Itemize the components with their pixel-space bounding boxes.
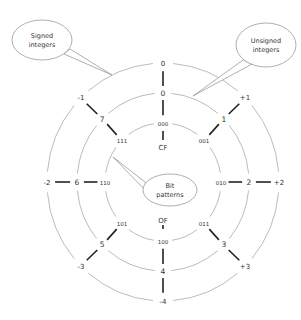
bit-patterns-callout-text-line2: patterns <box>156 191 184 199</box>
unsigned-value-label: 1 <box>221 115 226 124</box>
unsigned-value-label: 6 <box>75 178 80 187</box>
number-wheel-diagram: 00000+11001+22010+33011-44100-35101-2611… <box>0 0 301 320</box>
spoke-tick <box>209 124 219 135</box>
signed-integers-callout-text-line2: integers <box>29 41 56 49</box>
bit-patterns-callout-pointer <box>113 157 148 193</box>
signed-value-label: +2 <box>274 179 284 187</box>
bits-ring-arc <box>129 124 154 135</box>
signed-integers-callout: Signedintegers <box>12 20 112 75</box>
unsigned-value-label: 0 <box>161 89 166 98</box>
unsigned-ring-arc <box>108 93 155 113</box>
spoke-tick <box>107 124 117 135</box>
signed-value-label: 0 <box>161 60 165 68</box>
signed-value-label: +1 <box>240 94 250 102</box>
bit-pattern-label: 011 <box>199 221 210 227</box>
unsigned-value-label: 4 <box>161 267 166 276</box>
callouts: SignedintegersUnsignedintegersBitpattern… <box>12 20 296 206</box>
unsigned-value-label: 2 <box>247 178 252 187</box>
bit-pattern-label: 000 <box>158 121 169 127</box>
bits-ring-arc <box>106 147 116 173</box>
bit-patterns-callout-bubble <box>143 174 197 206</box>
signed-ring-arc <box>252 106 279 172</box>
bit-pattern-label: 101 <box>117 221 128 227</box>
unsigned-integers-callout: Unsignedintegers <box>193 23 296 96</box>
spoke-tick <box>87 104 98 114</box>
spoke-tick <box>229 250 240 260</box>
bit-pattern-label: 001 <box>199 138 210 144</box>
bits-ring-arc <box>106 191 116 217</box>
signed-ring-arc <box>252 192 279 258</box>
overflow-flag-label: OF <box>158 217 168 225</box>
unsigned-integers-callout-bubble <box>236 23 296 67</box>
signed-value-label: -3 <box>78 263 85 271</box>
unsigned-ring-arc <box>229 191 248 239</box>
bits-ring-arc <box>210 191 220 217</box>
unsigned-value-label: 5 <box>100 240 105 249</box>
unsigned-ring-arc <box>77 125 96 173</box>
spoke-tick <box>107 229 117 240</box>
carry-flag-label: CF <box>159 144 168 152</box>
unsigned-integers-callout-text-line2: integers <box>253 46 280 54</box>
bits-ring-arc <box>129 230 154 241</box>
signed-integers-callout-text-line1: Signed <box>31 32 53 40</box>
bits-ring-arc <box>172 124 197 135</box>
unsigned-integers-callout-pointer <box>193 60 252 96</box>
spoke-tick <box>87 250 98 260</box>
bit-pattern-label: 111 <box>117 138 128 144</box>
signed-ring-arc <box>47 106 74 172</box>
signed-value-label: -4 <box>160 298 168 306</box>
unsigned-ring-arc <box>108 251 155 271</box>
unsigned-value-label: 7 <box>100 115 105 124</box>
bit-pattern-label: 100 <box>158 239 169 245</box>
unsigned-integers-callout-text-line1: Unsigned <box>251 37 281 45</box>
spoke-tick <box>229 104 240 114</box>
signed-ring-arc <box>47 192 74 258</box>
spoke-tick <box>209 229 219 240</box>
unsigned-ring-arc <box>171 251 218 271</box>
bit-pattern-label: 010 <box>216 180 227 186</box>
signed-integers-callout-pointer <box>64 49 112 75</box>
signed-value-label: -1 <box>78 94 85 102</box>
signed-integers-callout-bubble <box>12 20 72 60</box>
signed-ring-arc <box>88 273 152 300</box>
signed-ring-arc <box>173 273 238 300</box>
bit-patterns-callout: Bitpatterns <box>113 157 197 206</box>
signed-value-label: +3 <box>240 263 250 271</box>
bits-ring-arc <box>210 147 220 173</box>
unsigned-ring-arc <box>171 93 218 113</box>
signed-value-label: -2 <box>44 179 51 187</box>
bits-ring-arc <box>172 230 197 241</box>
bit-pattern-label: 110 <box>100 180 111 186</box>
bit-patterns-callout-text-line1: Bit <box>166 182 175 190</box>
unsigned-value-label: 3 <box>221 240 226 249</box>
unsigned-ring-arc <box>229 125 248 173</box>
unsigned-ring-arc <box>77 191 96 239</box>
